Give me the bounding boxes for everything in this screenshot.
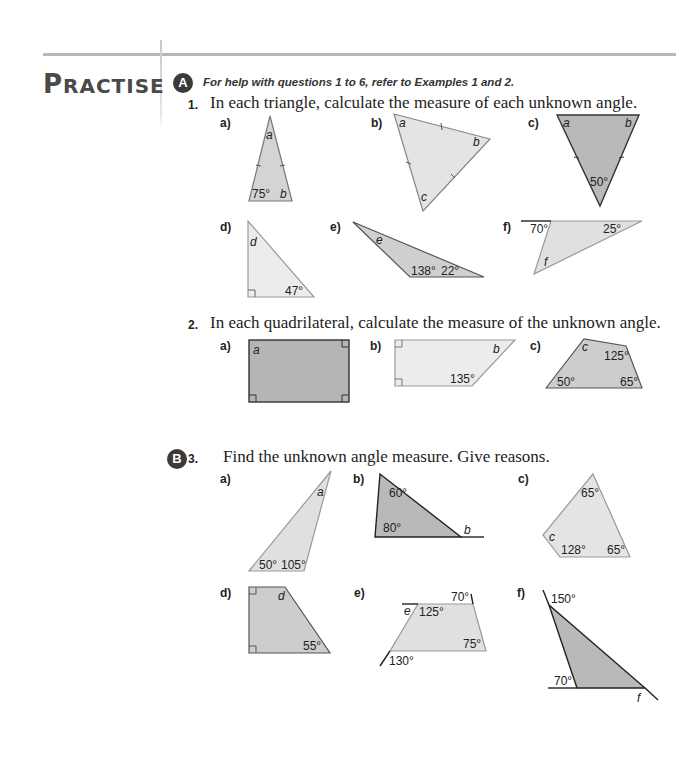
angle-label: a	[266, 128, 273, 142]
angle-label: 50°	[259, 558, 277, 572]
q3c-quadrilateral: 65° c 128° 65°	[543, 474, 630, 557]
angle-label: 150°	[551, 592, 576, 606]
q3a-triangle: a 50° 105°	[249, 471, 331, 572]
angle-label: c	[549, 530, 555, 544]
q1c-triangle: a b 50°	[557, 115, 639, 206]
q1f-triangle: 70° 25° f	[521, 221, 642, 274]
angle-label: a	[253, 343, 260, 357]
angle-label: 105°	[281, 558, 306, 572]
angle-label: 50°	[557, 375, 575, 389]
q2a-rectangle: a	[249, 340, 349, 402]
angle-label: 60°	[389, 486, 407, 500]
q3e-quadrilateral: 70° e 125° 75° 130°	[380, 590, 486, 668]
q1d-triangle: d 47°	[248, 221, 314, 298]
angle-label: 55°	[303, 639, 321, 653]
angle-label: c	[582, 340, 588, 354]
angle-label: b	[493, 342, 500, 356]
angle-label: 138°	[411, 264, 436, 278]
angle-label: 125°	[419, 605, 444, 619]
angle-label: b	[473, 135, 480, 149]
angle-label: d	[250, 235, 257, 249]
angle-label: e	[404, 604, 411, 618]
angle-label: a	[563, 116, 570, 130]
angle-label: 70°	[530, 222, 548, 236]
angle-label: c	[421, 190, 427, 204]
angle-label: 128°	[561, 543, 586, 557]
q3f-triangle: 150° 70° f	[543, 590, 658, 705]
q2c-quadrilateral: c 125° 50° 65°	[546, 339, 642, 389]
angle-label: 25°	[603, 222, 621, 236]
angle-label: d	[278, 589, 285, 603]
angle-label: b	[464, 523, 471, 537]
angle-label: b	[625, 116, 632, 130]
angle-label: 65°	[620, 375, 638, 389]
angle-label: f	[637, 691, 642, 705]
q2b-quadrilateral: b 135°	[395, 340, 515, 386]
q3d-quadrilateral: d 55°	[249, 587, 330, 653]
angle-label: 65°	[607, 543, 625, 557]
angle-label: 47°	[285, 284, 303, 298]
angle-label: 80°	[383, 521, 401, 535]
angle-label: 135°	[450, 372, 475, 386]
angle-label: 75°	[252, 187, 270, 201]
figures: a 75° b a b c a b 50° d 47° e 138° 22°	[0, 0, 676, 760]
angle-label: 125°	[604, 349, 629, 363]
angle-label: b	[280, 187, 287, 201]
q1b-triangle: a b c	[394, 114, 490, 211]
angle-label: 22°	[441, 264, 459, 278]
q1a-triangle: a 75° b	[249, 116, 292, 201]
angle-label: 50°	[590, 175, 608, 189]
q3b-triangle: 60° 80° b	[375, 474, 484, 537]
angle-label: 65°	[581, 486, 599, 500]
angle-label: a	[399, 116, 406, 130]
angle-label: 70°	[554, 674, 572, 688]
angle-label: a	[317, 485, 324, 499]
angle-label: 70°	[451, 590, 469, 604]
q1e-triangle: e 138° 22°	[353, 222, 484, 278]
angle-label: e	[376, 233, 383, 247]
angle-label: 130°	[389, 654, 414, 668]
angle-label: 75°	[463, 637, 481, 651]
